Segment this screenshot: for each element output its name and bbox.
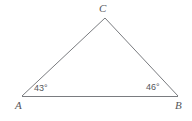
geometry-figure: A B C 43° 46° [0,0,192,121]
vertex-label-a: A [15,100,22,111]
angle-measure-at-a: 43° [34,84,48,93]
side-CB-line [105,18,178,96]
vertex-label-b: B [175,100,182,111]
angle-measure-at-b: 46° [146,83,160,92]
vertex-label-c: C [99,3,106,14]
triangle-drawing [0,0,192,121]
